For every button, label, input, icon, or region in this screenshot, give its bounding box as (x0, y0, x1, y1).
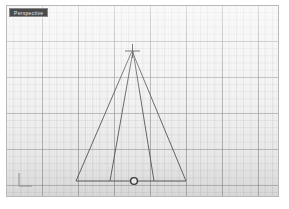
application-window: Perspective (0, 0, 289, 209)
apex-cross-icon[interactable] (125, 44, 140, 58)
outer-left-leg[interactable] (76, 51, 132, 181)
inner-left-leg[interactable] (110, 51, 133, 181)
outer-right-leg[interactable] (132, 51, 186, 181)
control-point-marker[interactable] (131, 178, 138, 185)
viewport-title-tab[interactable]: Perspective (9, 8, 48, 17)
geometry-canvas[interactable] (7, 6, 279, 197)
axis-gizmo (15, 170, 37, 190)
inner-right-leg[interactable] (133, 51, 154, 181)
cad-viewport[interactable]: Perspective (6, 5, 279, 197)
